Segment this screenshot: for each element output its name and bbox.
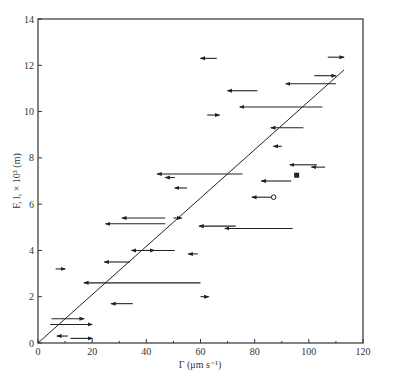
data-arrows	[50, 57, 344, 338]
data-markers	[271, 173, 299, 200]
chart: 020406080100120 02468101214 Γ (μm s⁻¹) F…	[0, 0, 393, 383]
y-tick-label: 14	[24, 14, 34, 25]
x-tick-label: 100	[301, 346, 316, 357]
x-axis: 020406080100120	[36, 339, 371, 357]
y-tick-label: 2	[29, 291, 34, 302]
y-tick-label: 4	[29, 245, 34, 256]
y-axis: 02468101214	[24, 14, 42, 349]
x-tick-label: 60	[196, 346, 206, 357]
square-marker	[294, 173, 299, 178]
fit-line	[38, 70, 344, 343]
x-tick-label: 120	[356, 346, 371, 357]
y-tick-label: 12	[24, 60, 34, 71]
y-tick-label: 0	[29, 338, 34, 349]
y-tick-label: 6	[29, 199, 34, 210]
y-tick-label: 10	[24, 106, 34, 117]
y-axis-title: F, l, × 10³ (m)	[11, 153, 23, 209]
x-tick-label: 40	[141, 346, 151, 357]
x-tick-label: 0	[36, 346, 41, 357]
x-tick-label: 80	[250, 346, 260, 357]
x-axis-title: Γ (μm s⁻¹)	[179, 359, 221, 371]
x-tick-label: 20	[87, 346, 97, 357]
y-tick-label: 8	[29, 152, 34, 163]
open-circle-marker	[271, 195, 276, 200]
plot-frame	[38, 19, 363, 343]
